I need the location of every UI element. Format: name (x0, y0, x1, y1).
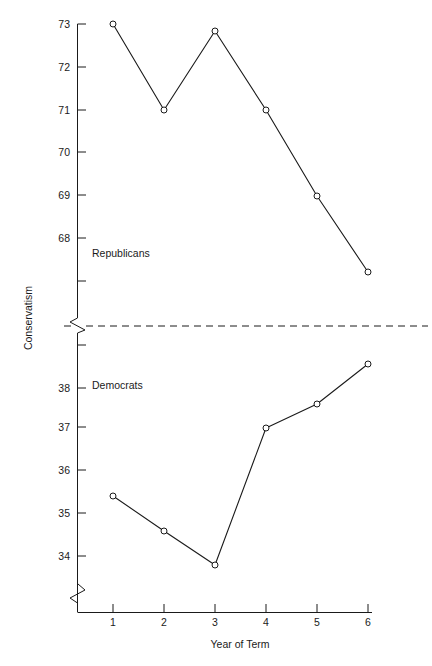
republicans-marker-year-5 (314, 193, 320, 199)
republicans-marker-year-6 (365, 269, 371, 275)
democrats-line (113, 364, 368, 565)
democrats-marker-year-5 (314, 401, 320, 407)
democrats-marker-year-6 (365, 361, 371, 367)
y-axis-lower-ticks (78, 345, 87, 556)
series-label-republicans: Republicans (92, 247, 150, 259)
series-republicans (110, 21, 371, 275)
y-tick-label-71: 71 (58, 104, 70, 116)
democrats-marker-year-3 (212, 562, 218, 568)
y-tick-label-72: 72 (58, 61, 70, 73)
x-tick-label-6: 6 (365, 616, 371, 628)
y-tick-label-35: 35 (58, 507, 70, 519)
x-axis-ticks (113, 604, 368, 613)
y-tick-label-70: 70 (58, 146, 70, 158)
series-democrats (110, 361, 371, 568)
y-tick-label-69: 69 (58, 189, 70, 201)
republicans-marker-year-1 (110, 21, 116, 27)
republicans-marker-year-3 (212, 28, 218, 34)
y-axis-break-zigzag (70, 318, 85, 333)
x-tick-label-4: 4 (263, 616, 269, 628)
y-tick-label-36: 36 (58, 464, 70, 476)
x-tick-label-3: 3 (212, 616, 218, 628)
y-axis-upper-ticks (78, 24, 87, 281)
x-tick-label-2: 2 (161, 616, 167, 628)
x-axis-title: Year of Term (211, 638, 270, 650)
democrats-marker-year-1 (110, 493, 116, 499)
series-label-democrats: Democrats (92, 379, 143, 391)
chart-figure: 73 72 71 70 69 68 38 37 36 35 34 (0, 0, 432, 666)
democrats-marker-year-4 (263, 425, 269, 431)
y-tick-label-37: 37 (58, 421, 70, 433)
republicans-marker-year-4 (263, 107, 269, 113)
y-tick-label-34: 34 (58, 550, 70, 562)
y-tick-label-73: 73 (58, 18, 70, 30)
republicans-marker-year-2 (161, 107, 167, 113)
republicans-line (113, 24, 368, 272)
y-axis-title: Conservatism (22, 286, 34, 350)
y-tick-label-68: 68 (58, 232, 70, 244)
x-tick-label-1: 1 (110, 616, 116, 628)
x-tick-label-5: 5 (314, 616, 320, 628)
y-tick-label-38: 38 (58, 382, 70, 394)
line-chart-broken-axis: 73 72 71 70 69 68 38 37 36 35 34 (0, 0, 432, 666)
democrats-marker-year-2 (161, 528, 167, 534)
